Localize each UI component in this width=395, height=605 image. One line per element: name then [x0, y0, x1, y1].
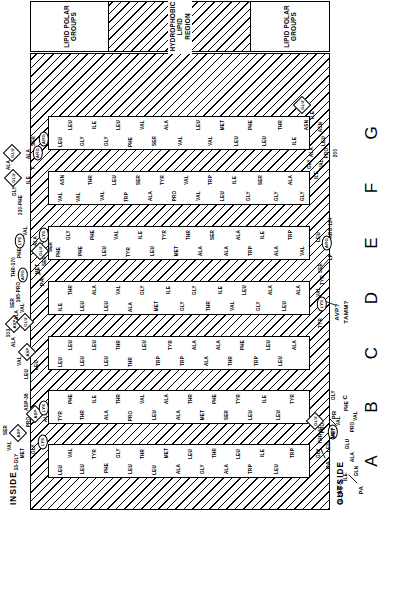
residue: LEU [80, 464, 85, 474]
residue: ALA [192, 340, 197, 350]
residue: TYR [318, 318, 323, 328]
residue: PRO [128, 411, 133, 422]
annotation-230-phe: 230-PHE [18, 195, 23, 215]
residue: TRP [180, 356, 185, 366]
annotation-thr-170: THR-170 [11, 257, 16, 277]
residue: VAL [7, 441, 12, 451]
residue: VAL [316, 287, 321, 297]
residue: GLY [104, 136, 109, 146]
residue: PHE [344, 401, 349, 411]
residue: ALA [309, 147, 314, 157]
residue: SER [318, 263, 323, 273]
residue: ILE [232, 176, 237, 184]
residue: VAL [208, 136, 213, 146]
residue: LEU [188, 449, 193, 459]
residue: VAL [116, 285, 121, 295]
figure-frame: LIPID POLARGROUPS HYDROPHOBICLIPIDREGION… [0, 0, 395, 605]
residue: MET [154, 301, 159, 311]
residue: ALA [216, 340, 221, 350]
residue: SER [258, 175, 263, 185]
residue: TYR [58, 411, 63, 421]
annotation-thr-67: THR-67 [318, 426, 323, 443]
residue: VAL [353, 411, 358, 421]
residue: VAL [300, 246, 305, 256]
annotation-pro-200: PRO [324, 148, 329, 159]
residue: ILE [218, 286, 223, 294]
residue: VAL [58, 192, 63, 202]
annotation-tamm: TAMM? [342, 300, 349, 323]
charged-residue-arg-ef: ARG [18, 268, 28, 283]
charged-residue-glu-g2-text: GLU [7, 148, 18, 159]
residue: THR [212, 448, 217, 458]
annotation-pa-nterm: PA [357, 486, 364, 495]
residue: TRP [208, 175, 213, 185]
residue: ALA [128, 302, 133, 312]
residue: GLY [300, 191, 305, 201]
residue: ILE [260, 231, 265, 239]
residue: GLY [338, 494, 343, 504]
residue: SER [152, 136, 157, 146]
residue: VAL [230, 301, 235, 311]
residue: GLY [180, 301, 185, 311]
residue: ILE [92, 121, 97, 129]
residue: LEU [150, 246, 155, 256]
residue: LEU [58, 357, 63, 367]
residue: ILE [310, 111, 315, 119]
residue: VAL [196, 191, 201, 201]
annotation-103: 103 [6, 329, 11, 337]
residue: TYR [92, 449, 97, 459]
residue: LEU [321, 136, 326, 146]
residue: THR [128, 357, 133, 367]
residue: ALA [292, 340, 297, 350]
residue: TRP [290, 448, 295, 458]
residue: GLY [80, 136, 85, 146]
annotation-thr-5: THR-5 [338, 481, 343, 496]
residue: TYR [236, 394, 241, 404]
residue: PHE [212, 394, 217, 404]
annotation-t: T [29, 166, 36, 170]
residue: TYR [126, 247, 131, 257]
residue: GLY [307, 159, 312, 169]
residue: VAL [140, 120, 145, 130]
residue: THR [186, 230, 191, 240]
annotation-c-terminus: C [341, 395, 348, 400]
residue: GLY [192, 285, 197, 295]
residue: GLY [274, 191, 279, 201]
residue: LEU [242, 285, 247, 295]
residue: ALA [11, 337, 16, 347]
panel-letter-B: B [362, 401, 382, 412]
panel-letter-G: G [362, 126, 382, 139]
residue: SER [10, 298, 15, 308]
residue: TRP [248, 246, 253, 256]
charged-residue-asp: ASP [9, 424, 27, 442]
lipid-polar-groups-top-label: LIPID POLARGROUPS [30, 1, 110, 52]
annotation-avp: AVP? [333, 303, 340, 320]
residue: ALA [26, 149, 31, 159]
residue: TYR [162, 230, 167, 240]
residue: LEU [92, 340, 97, 350]
residue: ASN [318, 122, 323, 132]
inside-label: INSIDE [9, 471, 18, 505]
residue: ASN [60, 175, 65, 185]
residue: SER [210, 230, 215, 240]
residue: ALA [148, 191, 153, 201]
panel-letter-D: D [362, 292, 382, 304]
residue: TRP [254, 356, 259, 366]
residue: GLY [140, 285, 145, 295]
residue: ALA [224, 246, 229, 256]
residue: ILE [314, 171, 319, 179]
residue: ILE [260, 449, 265, 457]
residue: GLY [331, 390, 336, 400]
residue: LEU [220, 191, 225, 201]
residue: ALA [236, 230, 241, 240]
panel-letter-A: A [362, 455, 382, 466]
residue: LEU [152, 410, 157, 420]
residue: LEU [58, 137, 63, 147]
residue: ALA [350, 452, 355, 462]
residue: LEU [262, 136, 267, 146]
residue: LEU [34, 360, 39, 370]
residue: PHE [78, 246, 83, 256]
lipid-polar-groups-bottom-text: LIPID POLARGROUPS [283, 5, 297, 48]
annotation-200: 200 [333, 149, 338, 157]
annotation-pa-ef: PA [38, 278, 45, 287]
